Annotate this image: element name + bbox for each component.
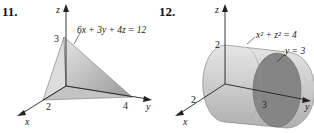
z-axis-label: z: [55, 4, 60, 15]
x-intercept: 2: [46, 101, 51, 112]
z-intercept: 3: [54, 33, 59, 44]
plane-diagram: z y x 3 4 2 6x + 3y + 4z = 12: [0, 0, 157, 133]
figure-12: 12. z y x 2 2 3 x² + z² = 4 y = 3: [157, 0, 314, 133]
z-axis-label: z: [214, 4, 219, 15]
plane-equation: 6x + 3y + 4z = 12: [77, 25, 147, 35]
figure-11: 11. z y x 3 4 2 6x + 3y + 4z = 12: [0, 0, 157, 133]
y-intercept: 4: [123, 100, 128, 111]
cylinder-equation: x² + z² = 4: [255, 30, 297, 40]
y-tick: 3: [262, 99, 267, 110]
x-axis-label: x: [182, 116, 188, 127]
x-axis-label: x: [24, 116, 30, 127]
figure-number: 12.: [159, 4, 175, 20]
x-tick: 2: [191, 94, 196, 105]
y-axis-label: y: [145, 101, 151, 112]
y-axis-label: y: [304, 101, 310, 112]
plane-label: y = 3: [284, 46, 305, 56]
z-tick: 2: [215, 39, 220, 50]
cylinder-diagram: z y x 2 2 3 x² + z² = 4 y = 3: [157, 0, 314, 133]
figure-number: 11.: [2, 4, 18, 20]
